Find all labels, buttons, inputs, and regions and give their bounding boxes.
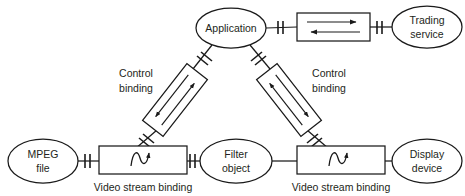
connector-mpeg-to-video-left — [78, 154, 99, 168]
binding-video-stream-left[interactable] — [99, 146, 187, 174]
node-filter-object-label-line2: object — [222, 162, 250, 174]
node-display-device-label-line2: device — [412, 162, 443, 174]
binding-control-left-label-line2: binding — [119, 82, 153, 94]
binding-control-right-label-line2: binding — [312, 82, 346, 94]
node-trading-service-label-line1: Trading — [409, 14, 444, 26]
node-trading-service[interactable]: Trading service — [392, 6, 462, 48]
binding-video-stream-right[interactable] — [297, 146, 385, 174]
connector-video-left-to-filter — [187, 154, 200, 168]
node-application[interactable]: Application — [196, 8, 266, 48]
binding-objects-diagram: Application Trading service MPEG file Fi… — [0, 0, 465, 196]
node-filter-object[interactable]: Filter object — [200, 139, 272, 183]
binding-video-stream-left-label: Video stream binding — [94, 181, 193, 193]
binding-control-left-label-line1: Control — [119, 67, 153, 79]
connector-trading-binding-to-service — [370, 21, 393, 34]
node-filter-object-label-line1: Filter — [224, 148, 248, 160]
node-application-label: Application — [205, 22, 257, 34]
node-mpeg-file-label-line2: file — [36, 162, 50, 174]
diagram-canvas: Application Trading service MPEG file Fi… — [0, 0, 465, 196]
connector-app-to-trading-binding — [266, 21, 297, 34]
node-mpeg-file[interactable]: MPEG file — [8, 139, 78, 183]
node-display-device[interactable]: Display device — [392, 139, 462, 183]
node-mpeg-file-label-line1: MPEG — [28, 148, 59, 160]
connector-app-to-control-right — [250, 45, 270, 69]
binding-control-right-label-line1: Control — [312, 67, 346, 79]
binding-video-stream-right-label: Video stream binding — [292, 181, 391, 193]
node-trading-service-label-line2: service — [410, 28, 443, 40]
binding-trading-box[interactable] — [297, 13, 370, 41]
node-display-device-label-line1: Display — [410, 148, 445, 160]
connector-app-to-control-left — [193, 45, 212, 69]
